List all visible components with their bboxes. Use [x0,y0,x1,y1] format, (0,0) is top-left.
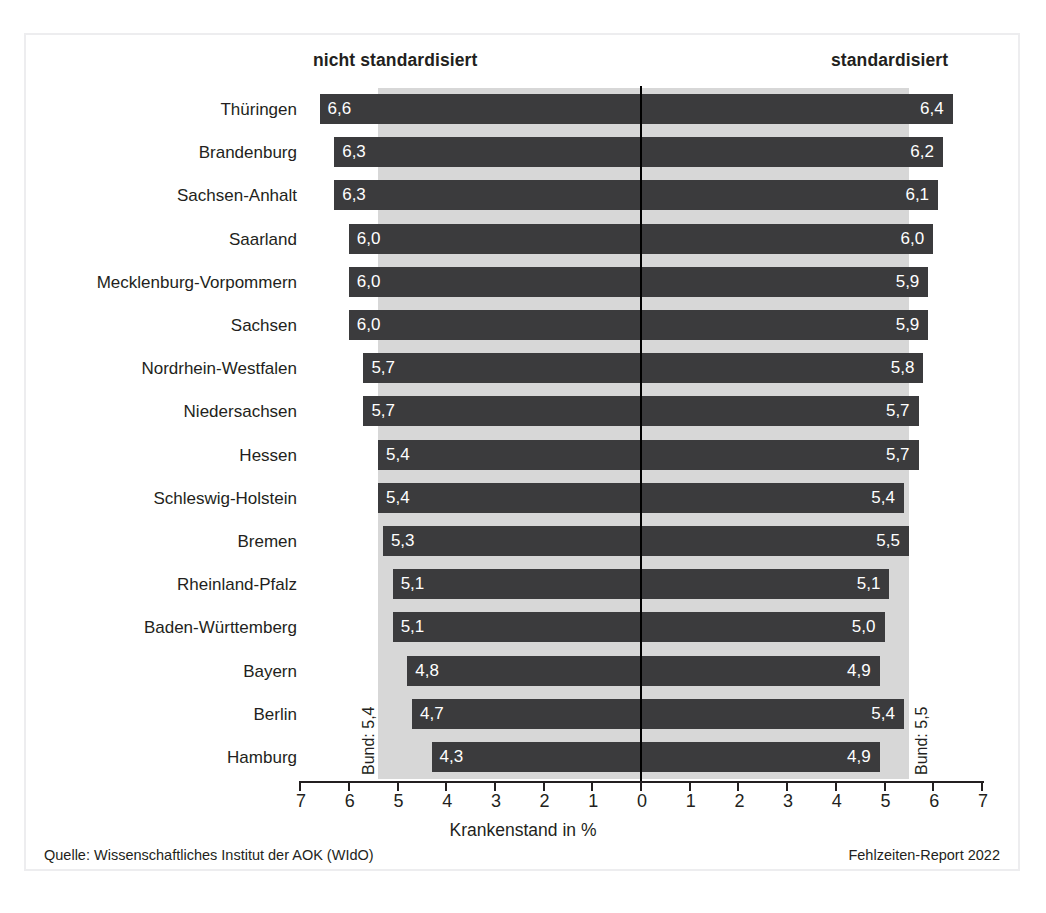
chart-frame [24,33,1020,871]
x-axis-title: Krankenstand in % [0,820,1046,841]
x-axis-tick-label: 2 [530,791,560,812]
header-not-standardized: nicht standardisiert [313,50,477,71]
x-axis-tick [737,781,739,791]
x-axis-tick-label: 4 [822,791,852,812]
source-note: Quelle: Wissenschaftliches Institut der … [44,847,374,863]
header-standardized: standardisiert [831,50,948,71]
x-axis-tick-label: 3 [481,791,511,812]
x-axis-tick-label: 7 [286,791,316,812]
x-axis-tick [689,781,691,791]
x-axis-tick [445,781,447,791]
x-axis-tick [981,781,983,791]
x-axis-tick-label: 7 [968,791,998,812]
x-axis-tick [835,781,837,791]
x-axis-tick [786,781,788,791]
x-axis-tick [348,781,350,791]
x-axis-tick [884,781,886,791]
x-axis-tick-label: 5 [871,791,901,812]
x-axis-tick-label: 2 [724,791,754,812]
x-axis-tick [494,781,496,791]
x-axis-tick-label: 1 [578,791,608,812]
x-axis-tick-label: 4 [432,791,462,812]
x-axis-tick [640,781,642,791]
report-note: Fehlzeiten-Report 2022 [848,847,1000,863]
x-axis-tick-label: 5 [384,791,414,812]
x-axis-tick [299,781,301,791]
x-axis-tick-label: 1 [676,791,706,812]
x-axis-tick [543,781,545,791]
chart-page: nicht standardisiert standardisiert Thür… [0,0,1046,913]
x-axis-tick [397,781,399,791]
x-axis-tick [591,781,593,791]
x-axis-tick-label: 0 [627,791,657,812]
x-axis-tick-label: 6 [919,791,949,812]
x-axis-tick [932,781,934,791]
x-axis-tick-label: 6 [335,791,365,812]
x-axis-tick-label: 3 [773,791,803,812]
